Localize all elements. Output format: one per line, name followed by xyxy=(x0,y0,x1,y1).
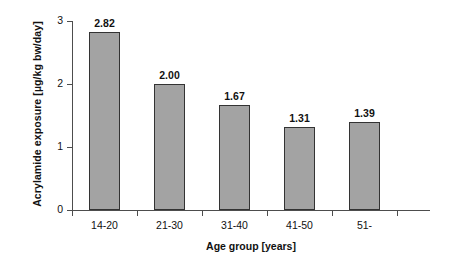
category-label-1: 21-30 xyxy=(137,219,202,232)
bar-value-4: 1.39 xyxy=(335,107,394,120)
y-tick-1: 1 xyxy=(67,147,72,148)
bar-value-0: 2.82 xyxy=(75,17,134,30)
bar-1 xyxy=(154,84,185,210)
bar-4 xyxy=(349,122,380,210)
x-axis-line xyxy=(72,210,430,211)
bar-value-2: 1.67 xyxy=(205,90,264,103)
x-tick-boundary-0 xyxy=(72,211,73,216)
category-label-2: 31-40 xyxy=(202,219,267,232)
bar-chart: Acrylamide exposure [µg/kg bw/day] 3 2 1… xyxy=(0,0,450,271)
category-label-0: 14-20 xyxy=(72,219,137,232)
y-tick-label-0: 0 xyxy=(57,203,63,216)
x-tick-boundary-1 xyxy=(137,211,138,216)
bar-0 xyxy=(89,32,120,210)
category-label-4: 51- xyxy=(332,219,397,232)
x-tick-boundary-3 xyxy=(267,211,268,216)
plot-area: 3 2 1 0 2.82 2.00 1.67 1.31 1.39 14-20 2… xyxy=(72,14,430,211)
y-tick-label-2: 2 xyxy=(57,77,63,90)
x-tick-boundary-5 xyxy=(397,211,398,216)
y-tick-2: 2 xyxy=(67,84,72,85)
bar-3 xyxy=(284,127,315,210)
bar-value-1: 2.00 xyxy=(140,69,199,82)
y-tick-label-3: 3 xyxy=(57,14,63,27)
x-tick-boundary-4 xyxy=(332,211,333,216)
y-axis-line xyxy=(72,21,73,211)
x-axis-title: Age group [years] xyxy=(72,240,430,252)
y-tick-3: 3 xyxy=(67,21,72,22)
y-axis-title: Acrylamide exposure [µg/kg bw/day] xyxy=(31,9,43,219)
bar-2 xyxy=(219,105,250,210)
x-tick-boundary-2 xyxy=(202,211,203,216)
category-label-3: 41-50 xyxy=(267,219,332,232)
bar-value-3: 1.31 xyxy=(270,112,329,125)
y-tick-label-1: 1 xyxy=(57,140,63,153)
